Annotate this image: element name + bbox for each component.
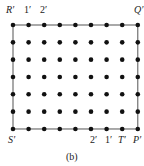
- lattice-point: [104, 23, 109, 28]
- figure-caption: (b): [66, 151, 78, 163]
- lattice-point: [11, 23, 16, 28]
- lattice-point: [120, 57, 125, 62]
- lattice-point: [58, 40, 63, 45]
- lattice-point: [42, 75, 47, 80]
- lattice-diagram: R′ 1′ 2′ Q′ S′ 2′ 1′ T′ P′ (b): [0, 0, 144, 166]
- lattice-point: [120, 92, 125, 97]
- label-top-1-prime: 1′: [24, 4, 31, 15]
- lattice-point: [42, 92, 47, 97]
- lattice-point: [89, 23, 94, 28]
- lattice-point: [120, 75, 125, 80]
- lattice-point: [104, 40, 109, 45]
- lattice-point: [11, 109, 16, 114]
- lattice-point: [26, 92, 31, 97]
- lattice-point: [26, 109, 31, 114]
- lattice-point: [11, 75, 16, 80]
- lattice-point: [26, 127, 31, 132]
- lattice-point: [89, 92, 94, 97]
- lattice-point: [136, 23, 141, 28]
- lattice-point: [89, 40, 94, 45]
- lattice-point: [73, 92, 78, 97]
- label-P-prime: P′: [132, 134, 142, 145]
- lattice-point: [136, 75, 141, 80]
- lattice-point: [104, 92, 109, 97]
- label-top-2-prime: 2′: [40, 4, 47, 15]
- lattice-point: [26, 40, 31, 45]
- lattice-point: [73, 57, 78, 62]
- lattice-point: [136, 40, 141, 45]
- lattice-point: [26, 75, 31, 80]
- lattice-point: [136, 109, 141, 114]
- lattice-point: [11, 92, 16, 97]
- lattice-point: [73, 75, 78, 80]
- lattice-point: [42, 23, 47, 28]
- lattice-point: [58, 57, 63, 62]
- lattice-point: [42, 127, 47, 132]
- lattice-point: [26, 57, 31, 62]
- label-bottom-2-prime: 2′: [90, 134, 97, 145]
- label-Q-prime: Q′: [134, 4, 144, 15]
- lattice-point: [11, 40, 16, 45]
- lattice-point: [73, 127, 78, 132]
- lattice-point: [42, 57, 47, 62]
- lattice-point: [42, 109, 47, 114]
- lattice-point: [89, 57, 94, 62]
- lattice-point: [104, 127, 109, 132]
- lattice-point: [89, 75, 94, 80]
- lattice-point: [120, 40, 125, 45]
- lattice-point: [42, 40, 47, 45]
- lattice-point: [58, 75, 63, 80]
- lattice-point: [120, 109, 125, 114]
- lattice-point: [73, 109, 78, 114]
- lattice-point: [136, 127, 141, 132]
- lattice-points: [11, 23, 140, 132]
- lattice-point: [11, 127, 16, 132]
- lattice-point: [58, 23, 63, 28]
- lattice-point: [73, 23, 78, 28]
- lattice-point: [73, 40, 78, 45]
- label-T-prime: T′: [118, 134, 127, 145]
- label-S-prime: S′: [8, 134, 16, 145]
- lattice-point: [58, 109, 63, 114]
- lattice-point: [89, 127, 94, 132]
- lattice-point: [58, 92, 63, 97]
- label-R-prime: R′: [5, 4, 15, 15]
- lattice-point: [136, 57, 141, 62]
- lattice-point: [58, 127, 63, 132]
- lattice-point: [104, 109, 109, 114]
- lattice-point: [136, 92, 141, 97]
- label-bottom-1-prime: 1′: [105, 134, 112, 145]
- lattice-point: [26, 23, 31, 28]
- lattice-point: [104, 75, 109, 80]
- lattice-point: [89, 109, 94, 114]
- lattice-point: [120, 23, 125, 28]
- lattice-point: [120, 127, 125, 132]
- lattice-point: [104, 57, 109, 62]
- lattice-point: [11, 57, 16, 62]
